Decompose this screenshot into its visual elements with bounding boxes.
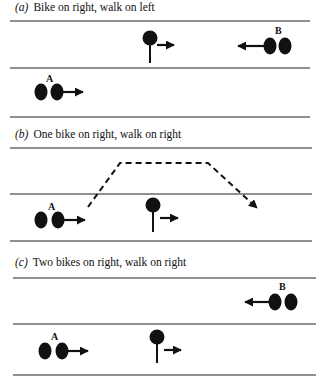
cyclist-b-icon: B [245, 281, 298, 311]
cyclist-a-icon: A [35, 201, 86, 229]
cyclist-b-icon: B [238, 25, 292, 55]
cyclist-a-icon: A [35, 73, 84, 101]
panel-b: A [10, 148, 312, 241]
cyclist-a-label: A [51, 331, 59, 342]
cyclist-a-icon: A [39, 331, 89, 360]
cyclist-b-label: B [279, 281, 286, 292]
panel-c: B A [13, 278, 316, 375]
pedestrian-icon [150, 330, 182, 364]
pedestrian-icon [143, 31, 175, 64]
cyclist-b-label: B [275, 25, 282, 36]
panel-a: B A [10, 21, 310, 117]
cyclist-a-label: A [46, 73, 54, 84]
pedestrian-icon [146, 198, 179, 233]
cyclist-a-label: A [48, 201, 56, 212]
path-diagram: B A A [0, 0, 321, 382]
overtaking-trajectory [88, 163, 257, 208]
